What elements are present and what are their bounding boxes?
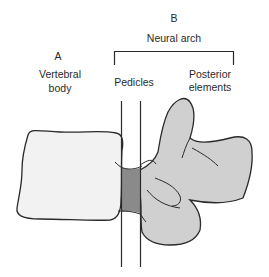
label-posterior-1: Posterior [178, 68, 242, 81]
label-a: A [52, 50, 64, 63]
pedicle [121, 167, 140, 213]
label-b: B [168, 12, 180, 25]
label-neural-arch: Neural arch [134, 32, 214, 45]
label-vertebral-body-2: body [30, 82, 90, 95]
posterior-elements [140, 99, 252, 245]
label-vertebral-body-1: Vertebral [30, 68, 90, 81]
neural-arch-bracket [115, 52, 234, 66]
label-pedicles: Pedicles [106, 76, 162, 89]
vertebral-body [17, 131, 123, 221]
label-posterior-2: elements [178, 81, 242, 94]
